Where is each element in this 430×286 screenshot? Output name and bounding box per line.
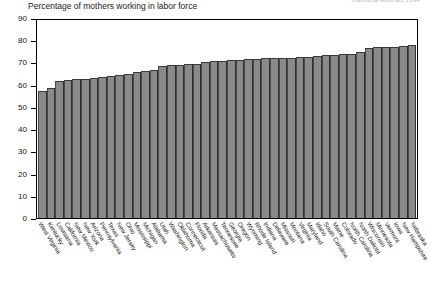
y-axis-tick (31, 108, 36, 109)
bar (365, 48, 374, 218)
x-axis-tick: Idaho (314, 220, 323, 286)
x-axis-tick: Nebraska (409, 220, 418, 286)
y-axis-tick (31, 41, 36, 42)
bar (236, 60, 245, 218)
x-axis-tick: Indiana (262, 220, 271, 286)
x-axis-tick: Colorado (339, 220, 348, 286)
x-axis-tick: Michigan (141, 220, 150, 286)
bar (107, 76, 116, 218)
x-axis-tick: Mississippi (132, 220, 141, 286)
x-axis-tick: Rhode Island (253, 220, 262, 286)
bar (253, 59, 262, 218)
x-axis-tick: Ohio (123, 220, 132, 286)
bar (72, 79, 81, 218)
bar (408, 45, 417, 218)
x-axis-tick: Alabama (149, 220, 158, 286)
x-axis-tick: West Virginia (37, 220, 46, 286)
bar (141, 71, 150, 218)
bar (347, 54, 356, 218)
x-axis-tick: New Mexico (72, 220, 81, 286)
y-axis-tick (31, 197, 36, 198)
bar (81, 79, 90, 218)
x-axis-tick: Montana (288, 220, 297, 286)
x-axis-tick: Maine (331, 220, 340, 286)
bar (124, 74, 133, 218)
y-axis-tick-label: 70 (18, 59, 27, 67)
x-axis-tick: Arkansas (201, 220, 210, 286)
x-axis-tick: Oklahoma (175, 220, 184, 286)
x-axis-tick: Tennessee (218, 220, 227, 286)
y-axis-tick-label: 90 (18, 15, 27, 23)
x-axis-tick: Texas (106, 220, 115, 286)
x-axis-tick: California (63, 220, 72, 286)
x-axis-labels: West VirginiaKentuckyLouisianaCalifornia… (36, 220, 418, 286)
x-axis-tick: South Carolina (322, 220, 331, 286)
y-axis-tick-label: 40 (18, 126, 27, 134)
bar (382, 47, 391, 218)
x-axis-tick: Kentucky (46, 220, 55, 286)
x-axis-tick: Arizona (89, 220, 98, 286)
x-axis-tick: Oregon (236, 220, 245, 286)
x-axis-tick: Wisconsin (365, 220, 374, 286)
bar (64, 80, 73, 218)
bar (167, 65, 176, 218)
bar (210, 61, 219, 218)
y-axis-tick (31, 63, 36, 64)
y-axis-tick (31, 152, 36, 153)
bar (176, 65, 185, 218)
bar (399, 46, 408, 218)
x-axis-tick: Delaware (270, 220, 279, 286)
x-axis-tick: Louisiana (54, 220, 63, 286)
bar (133, 72, 142, 218)
y-axis-tick-label: 10 (18, 193, 27, 201)
bar (55, 81, 64, 218)
bar (218, 61, 227, 218)
x-axis-tick: New Hampshire (400, 220, 409, 286)
bar (90, 78, 99, 218)
bar (158, 66, 167, 218)
bar (261, 58, 270, 218)
plot-area (36, 19, 418, 219)
bar (38, 91, 47, 218)
x-axis-tick: Utah (158, 220, 167, 286)
bar (322, 55, 331, 218)
x-axis-tick: Georgia (227, 220, 236, 286)
y-axis-tick (31, 130, 36, 131)
y-axis-tick-label: 30 (18, 148, 27, 156)
y-axis-tick (31, 175, 36, 176)
y-axis-tick (31, 86, 36, 87)
bar (279, 58, 288, 218)
bar (150, 70, 159, 218)
bar (304, 57, 313, 218)
bar (330, 55, 339, 218)
x-axis-tick: Wyoming (244, 220, 253, 286)
y-axis-tick (31, 19, 36, 20)
bar (270, 58, 279, 218)
y-axis-tick-label: 80 (18, 37, 27, 45)
bar (193, 64, 202, 218)
x-axis-tick: North Carolina (348, 220, 357, 286)
x-axis-tick: North Dakota (357, 220, 366, 286)
bar (201, 62, 210, 218)
bar (115, 75, 124, 218)
corner-source-note: Statistical Abstract 1994 (351, 0, 420, 5)
y-axis-tick-label: 20 (18, 171, 27, 179)
x-axis-tick: Maryland (305, 220, 314, 286)
x-axis-tick: Iowa (391, 220, 400, 286)
bar (227, 60, 236, 218)
y-axis-tick-label: 60 (18, 82, 27, 90)
x-axis-tick: Virginia (296, 220, 305, 286)
bar (313, 56, 322, 218)
x-axis-tick: New York (80, 220, 89, 286)
y-axis-tick-label: 0 (23, 215, 27, 223)
bar-series (37, 20, 417, 218)
bar (184, 64, 193, 218)
x-axis-tick: Missouri (279, 220, 288, 286)
bar (390, 47, 399, 218)
x-axis-tick: Minnesota (374, 220, 383, 286)
bar (296, 57, 305, 218)
x-axis-tick: Washington (167, 220, 176, 286)
y-axis-tick-label: 50 (18, 104, 27, 112)
bar (339, 54, 348, 218)
